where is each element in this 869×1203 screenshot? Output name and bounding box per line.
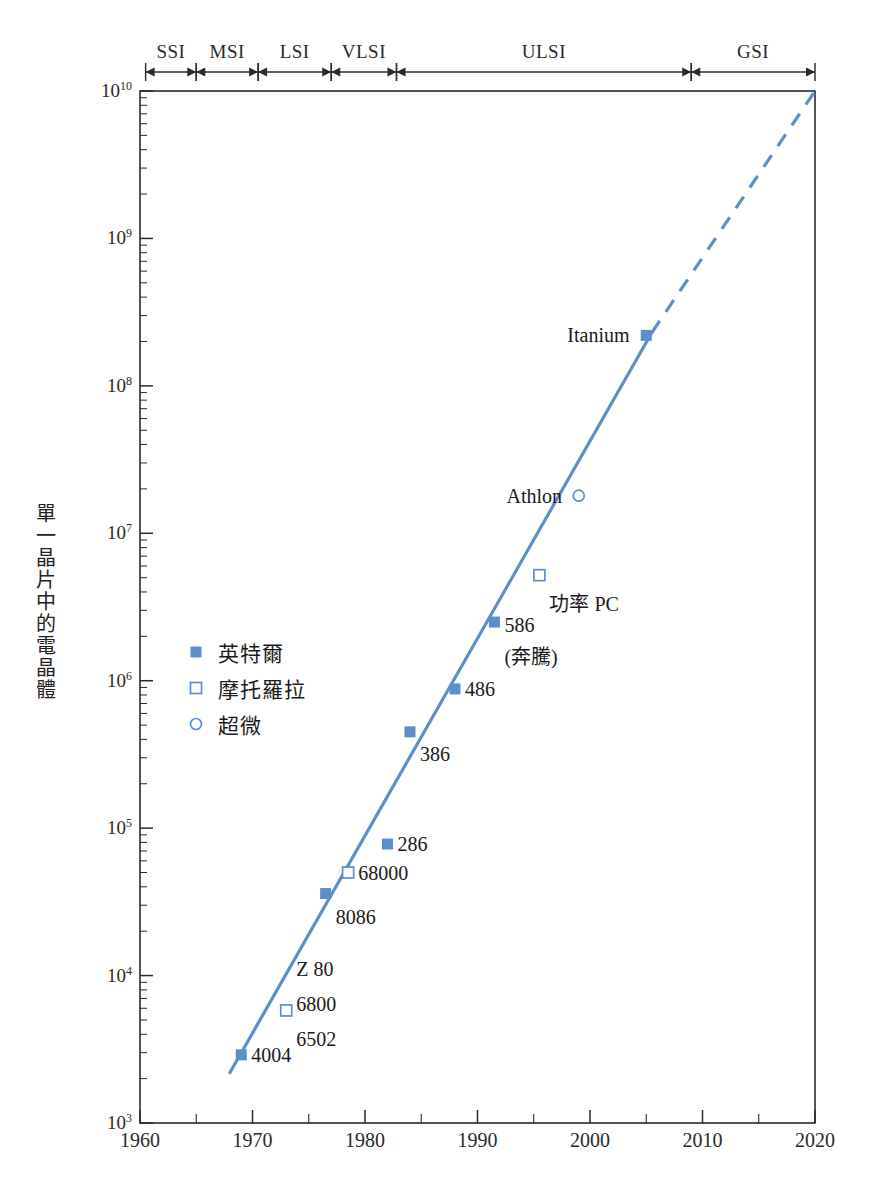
data-point-486 bbox=[450, 683, 461, 694]
legend-marker-0 bbox=[191, 647, 202, 658]
annotation-z-80: Z 80 bbox=[296, 958, 333, 981]
annotation-奔騰: (奔騰) bbox=[504, 640, 557, 669]
data-point-athlon bbox=[573, 490, 584, 501]
y-axis-title: 單一晶片中的電晶體 bbox=[30, 503, 59, 701]
x-tick-label-1990: 1990 bbox=[458, 1129, 498, 1152]
annotation-586: 586 bbox=[504, 613, 534, 636]
data-point-386 bbox=[405, 726, 416, 737]
y-tick-label-1e7: 107 bbox=[107, 522, 132, 544]
plot-frame bbox=[140, 91, 815, 1123]
era-arrow-head bbox=[691, 68, 700, 77]
y-axis-ticks bbox=[140, 91, 153, 1123]
legend-label-2: 超微 bbox=[218, 709, 262, 739]
data-point-586 bbox=[489, 617, 500, 628]
x-tick-label-1960: 1960 bbox=[120, 1129, 160, 1152]
x-tick-label-2020: 2020 bbox=[795, 1129, 835, 1152]
era-arrow-head bbox=[249, 68, 258, 77]
trend-line-dashed bbox=[652, 91, 815, 333]
annotation-386: 386 bbox=[420, 742, 450, 765]
data-point-z-80 bbox=[281, 1005, 292, 1016]
x-axis-ticks bbox=[140, 1110, 815, 1123]
data-point-itanium bbox=[641, 330, 652, 341]
x-tick-label-1970: 1970 bbox=[233, 1129, 273, 1152]
y-tick-label-1e10: 1010 bbox=[101, 80, 132, 102]
era-arrow-head bbox=[146, 68, 155, 77]
era-arrow-head bbox=[388, 68, 397, 77]
era-arrow-head bbox=[196, 68, 205, 77]
era-arrow-head bbox=[397, 68, 406, 77]
annotation-itanium: Itanium bbox=[567, 324, 629, 347]
era-arrow-band bbox=[146, 63, 815, 81]
legend-label-1: 摩托羅拉 bbox=[218, 673, 306, 703]
legend-marker-1 bbox=[191, 683, 202, 694]
legend-marker-2 bbox=[191, 719, 202, 730]
y-tick-label-1e6: 106 bbox=[107, 670, 132, 692]
era-arrow-head bbox=[331, 68, 340, 77]
y-tick-label-1e4: 104 bbox=[107, 965, 132, 987]
annotation-68000: 68000 bbox=[358, 861, 408, 884]
annotation-8086: 8086 bbox=[336, 905, 376, 928]
x-tick-label-2000: 2000 bbox=[570, 1129, 610, 1152]
y-tick-label-1e9: 109 bbox=[107, 227, 132, 249]
x-tick-label-2010: 2010 bbox=[683, 1129, 723, 1152]
data-point-功率-pc bbox=[534, 570, 545, 581]
transistor-count-chart: SSIMSILSIVLSIULSIGSI 單一晶片中的電晶體 103104105… bbox=[0, 0, 869, 1203]
era-label-ulsi: ULSI bbox=[522, 41, 566, 63]
era-arrow-head bbox=[682, 68, 691, 77]
era-arrow-head bbox=[322, 68, 331, 77]
data-point-286 bbox=[382, 839, 393, 850]
data-point-4004 bbox=[236, 1049, 247, 1060]
y-tick-label-1e5: 105 bbox=[107, 817, 132, 839]
era-label-ssi: SSI bbox=[156, 41, 185, 63]
data-point-68000 bbox=[343, 867, 354, 878]
era-arrow-head bbox=[258, 68, 267, 77]
era-arrow-head bbox=[806, 68, 815, 77]
y-tick-label-1e8: 108 bbox=[107, 375, 132, 397]
annotation-286: 286 bbox=[398, 833, 428, 856]
annotation-6800: 6800 bbox=[296, 993, 336, 1016]
annotation-4004: 4004 bbox=[251, 1043, 291, 1066]
era-arrow-head bbox=[187, 68, 196, 77]
era-label-vlsi: VLSI bbox=[342, 41, 386, 63]
era-label-lsi: LSI bbox=[280, 41, 310, 63]
x-tick-label-1980: 1980 bbox=[345, 1129, 385, 1152]
plot-canvas bbox=[0, 0, 869, 1203]
annotation-athlon: Athlon bbox=[506, 484, 562, 507]
era-label-msi: MSI bbox=[210, 41, 245, 63]
annotation-6502: 6502 bbox=[296, 1028, 336, 1051]
era-label-gsi: GSI bbox=[737, 41, 769, 63]
annotation-486: 486 bbox=[465, 677, 495, 700]
legend-markers bbox=[191, 647, 202, 730]
annotation-功率-pc: 功率 PC bbox=[549, 588, 618, 617]
data-point-8086 bbox=[320, 888, 331, 899]
legend-label-0: 英特爾 bbox=[218, 637, 284, 667]
